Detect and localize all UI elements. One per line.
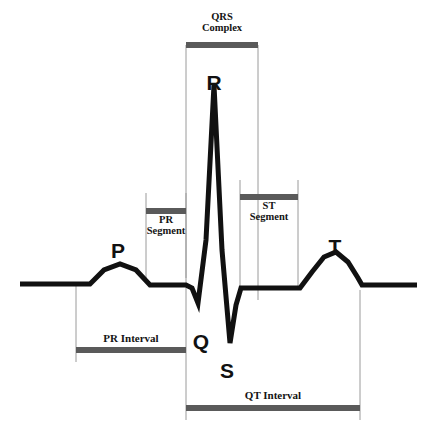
wave-label-t: T [305,236,365,257]
wave-label-r: R [184,72,244,93]
annotation-label-pr-interval: PR Interval [61,333,201,344]
annotation-label-line: Segment [96,226,236,237]
wave-label-p: P [88,240,148,261]
ecg-diagram: PQRST QRSComplexPRSegmentSTSegmentPR Int… [0,0,435,445]
annotation-label-line: Segment [199,212,339,223]
annotation-bar-pr-interval [76,347,186,353]
annotation-label-line: PR Interval [61,333,201,344]
annotation-label-qrs-complex: QRSComplex [152,12,292,34]
annotation-bar-qrs-complex [186,42,258,48]
annotation-label-line: Complex [152,23,292,34]
annotation-label-st-segment: STSegment [199,201,339,223]
annotation-bar-qt-interval [186,405,360,411]
wave-label-s: S [197,360,257,381]
annotation-label-qt-interval: QT Interval [203,390,343,401]
annotation-label-line: QT Interval [203,390,343,401]
